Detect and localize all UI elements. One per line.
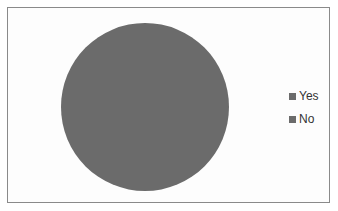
legend-item-no: No (289, 112, 319, 126)
legend-swatch-no (289, 116, 296, 123)
chart-legend: Yes No (289, 89, 319, 135)
pie-chart (0, 0, 338, 211)
legend-label-no: No (299, 112, 314, 126)
legend-label-yes: Yes (299, 89, 319, 103)
legend-item-yes: Yes (289, 89, 319, 103)
pie-slice-no (61, 23, 229, 191)
legend-swatch-yes (289, 93, 296, 100)
